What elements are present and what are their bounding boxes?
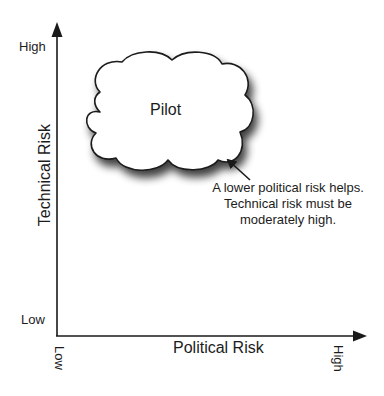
x-axis-title: Political Risk	[173, 340, 264, 356]
x-axis-low-label: Low	[53, 346, 66, 370]
cloud-label: Pilot	[150, 102, 181, 118]
y-axis-high-label: High	[19, 40, 46, 53]
y-axis-low-label: Low	[21, 313, 45, 326]
x-axis-high-label: High	[332, 345, 345, 372]
annotation-text: A lower political risk helps. Technical …	[203, 180, 373, 228]
annotation-line: moderately high.	[203, 212, 373, 228]
x-axis-arrow-icon	[353, 331, 367, 342]
risk-diagram: High Low Technical Risk Low High Politic…	[0, 0, 384, 396]
annotation-line: A lower political risk helps.	[203, 180, 373, 196]
y-axis-title: Technical Risk	[37, 124, 53, 226]
annotation-arrow-icon	[228, 160, 250, 180]
y-axis-arrow-icon	[52, 22, 63, 37]
y-axis	[52, 22, 63, 336]
annotation-line: Technical risk must be	[203, 196, 373, 212]
